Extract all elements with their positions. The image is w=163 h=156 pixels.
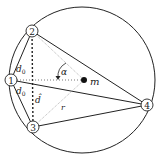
label-d-hat: d̂ <box>35 93 42 105</box>
svg-text:2: 2 <box>29 27 35 37</box>
geometry-diagram: 1 2 3 4 d0 d0 d̂ α r m <box>0 0 163 156</box>
edge-1-3 <box>11 80 33 127</box>
node-4: 4 <box>141 99 153 111</box>
label-alpha: α <box>61 67 67 77</box>
label-d0-lower: d0 <box>16 86 26 97</box>
svg-text:3: 3 <box>30 123 36 133</box>
svg-text:4: 4 <box>144 101 150 111</box>
label-d0-upper: d0 <box>16 64 26 75</box>
alpha-arrowhead <box>56 76 61 80</box>
edge-1-4 <box>11 80 147 105</box>
edge-2-4 <box>32 31 147 105</box>
svg-text:1: 1 <box>8 76 14 86</box>
label-m: m <box>90 76 99 87</box>
node-1: 1 <box>5 74 17 86</box>
label-r: r <box>61 103 66 112</box>
node-3: 3 <box>27 121 39 133</box>
center-point-m <box>81 77 87 83</box>
edge-3-4 <box>33 105 147 127</box>
chord-2-3 <box>32 31 33 127</box>
node-2: 2 <box>26 25 38 37</box>
